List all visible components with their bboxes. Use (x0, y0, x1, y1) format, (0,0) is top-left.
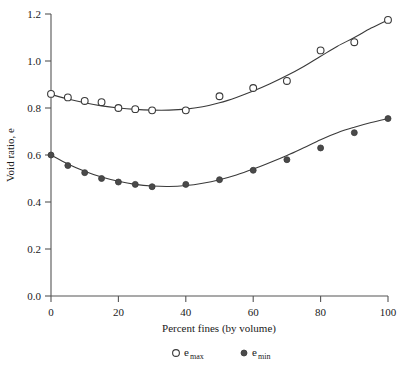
data-point-e_min (351, 130, 357, 136)
y-tick-label: 0.0 (27, 290, 41, 302)
data-point-e_max (317, 47, 324, 54)
chart-legend: emaxemin (173, 346, 271, 361)
data-point-e_min (132, 181, 138, 187)
data-point-e_max (132, 106, 139, 113)
data-point-e_min (284, 157, 290, 163)
legend-subscript-max: max (190, 352, 204, 361)
data-point-e_min (82, 170, 88, 176)
x-tick-label: 60 (248, 306, 260, 318)
data-point-e_max (81, 98, 88, 105)
data-point-e_max (149, 107, 156, 114)
data-point-e_max (48, 91, 55, 98)
x-tick-label: 20 (113, 306, 125, 318)
data-point-e_max (64, 94, 71, 101)
legend-subscript-min: min (258, 352, 270, 361)
y-axis-ticks: 0.00.20.40.60.81.01.2 (27, 8, 51, 302)
data-point-e_min (318, 145, 324, 151)
data-point-e_min (250, 167, 256, 173)
plot-axes (51, 14, 388, 296)
y-tick-label: 0.4 (27, 196, 41, 208)
y-tick-label: 0.6 (27, 149, 41, 161)
x-tick-label: 0 (48, 306, 54, 318)
legend-label-min: e (252, 346, 257, 358)
y-tick-label: 0.8 (27, 102, 41, 114)
data-point-e_min (183, 181, 189, 187)
x-tick-label: 80 (315, 306, 327, 318)
y-tick-label: 1.0 (27, 55, 41, 67)
data-point-e_min (115, 179, 121, 185)
data-point-e_max (216, 93, 223, 100)
y-tick-label: 0.2 (27, 243, 41, 255)
data-point-e_min (149, 184, 155, 190)
data-point-e_max (284, 78, 291, 85)
x-tick-label: 100 (380, 306, 397, 318)
legend-marker-filled-circle (241, 350, 247, 356)
data-point-e_max (385, 16, 392, 23)
legend-marker-open-circle (173, 350, 180, 357)
chart-figure: 0.00.20.40.60.81.01.2 020406080100 Perce… (0, 0, 408, 371)
x-axis-ticks: 020406080100 (48, 296, 397, 318)
data-point-e_min (217, 177, 223, 183)
data-point-e_max (182, 107, 189, 114)
data-point-e_min (99, 176, 105, 182)
y-axis-title: Void ratio, e (4, 128, 16, 182)
x-axis-title: Percent fines (by volume) (162, 322, 276, 335)
legend-label-max: e (184, 346, 189, 358)
data-point-e_max (98, 99, 105, 106)
data-point-e_max (351, 39, 358, 46)
data-point-e_max (250, 85, 257, 92)
data-point-e_max (115, 105, 122, 112)
data-point-e_min (385, 116, 391, 122)
data-point-e_min (48, 152, 54, 158)
y-tick-label: 1.2 (27, 8, 41, 20)
x-tick-label: 40 (180, 306, 192, 318)
void-ratio-scatter-chart: 0.00.20.40.60.81.01.2 020406080100 Perce… (0, 0, 408, 371)
data-point-e_min (65, 163, 71, 169)
